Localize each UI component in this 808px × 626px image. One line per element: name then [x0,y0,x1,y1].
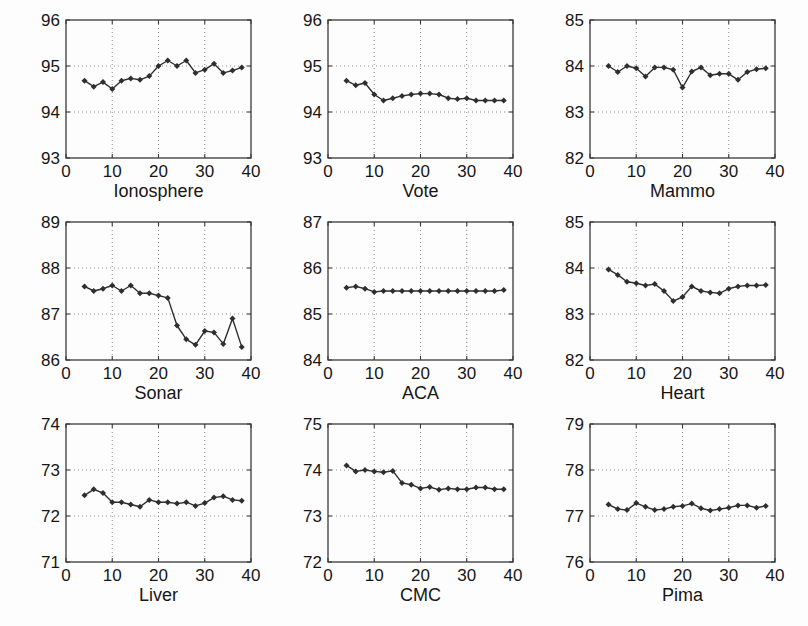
data-point-marker [146,290,152,296]
data-point-marker [82,283,88,289]
y-tick-label: 93 [41,149,60,168]
data-point-marker [128,75,134,81]
x-tick-label: 0 [61,162,70,180]
data-point-marker [202,500,208,506]
data-point-marker [239,498,245,504]
y-tick-label: 87 [303,213,322,232]
y-tick-label: 87 [41,305,60,324]
data-point-marker [492,98,498,104]
x-tick-label: 40 [504,364,523,382]
y-tick-label: 84 [565,57,584,76]
pima-line-chart: 01020304076777879 [540,412,798,584]
data-point-marker [230,68,236,74]
data-point-marker [353,283,359,289]
data-point-marker [408,288,414,294]
data-point-marker [445,485,451,491]
plots-grid: 01020304093949596 Ionosphere 01020304093… [0,0,808,614]
y-tick-label: 84 [303,351,322,370]
data-point-marker [427,288,433,294]
y-tick-label: 85 [565,213,584,232]
data-point-marker [445,288,451,294]
x-tick-label: 40 [504,566,523,584]
subplot-sonar: 01020304086878889 Sonar [16,210,278,412]
data-point-marker [473,98,479,104]
subplot-vote: 01020304093949596 Vote [278,8,540,210]
y-tick-label: 83 [565,305,584,324]
data-point-marker [473,288,479,294]
data-point-marker [652,507,658,513]
data-series-line [347,81,504,101]
x-tick-label: 20 [673,162,692,180]
data-point-marker [344,78,350,84]
data-point-marker [119,288,125,294]
data-point-marker [211,495,217,501]
data-point-marker [633,280,639,286]
y-tick-label: 95 [303,57,322,76]
data-point-marker [445,95,451,101]
data-point-marker [689,69,695,75]
data-point-marker [230,497,236,503]
data-point-marker [427,91,433,97]
y-tick-label: 85 [565,11,584,30]
x-tick-label: 40 [766,162,785,180]
y-tick-label: 79 [565,415,584,434]
y-tick-label: 96 [303,11,322,30]
data-point-marker [239,344,245,350]
y-tick-label: 94 [41,103,60,122]
x-tick-label: 40 [242,162,261,180]
data-point-marker [418,485,424,491]
data-point-marker [165,499,171,505]
x-tick-label: 30 [457,162,476,180]
y-tick-label: 71 [41,553,60,572]
data-point-marker [399,93,405,99]
cmc-line-chart: 01020304072737475 [278,412,536,584]
data-point-marker [698,505,704,511]
x-tick-label: 10 [103,162,122,180]
data-point-marker [362,467,368,473]
data-point-marker [408,482,414,488]
x-tick-label: 30 [195,162,214,180]
data-point-marker [744,282,750,288]
data-point-marker [344,285,350,291]
x-tick-label: 20 [149,162,168,180]
data-point-marker [763,282,769,288]
data-point-marker [726,505,732,511]
data-point-marker [482,98,488,104]
x-tick-label: 0 [585,364,594,382]
subplot-ionosphere: 01020304093949596 Ionosphere [16,8,278,210]
data-point-marker [717,71,723,77]
subplot-title-heart: Heart [590,383,775,404]
y-tick-label: 74 [41,415,60,434]
data-point-marker [128,502,134,508]
x-tick-label: 10 [365,162,384,180]
data-point-marker [455,96,461,102]
data-series-line [85,286,242,348]
aca-line-chart: 01020304084858687 [278,210,536,382]
y-tick-label: 85 [303,305,322,324]
data-point-marker [615,506,621,512]
x-tick-label: 30 [719,566,738,584]
data-point-marker [717,506,723,512]
data-point-marker [174,501,180,507]
data-point-marker [390,95,396,101]
data-point-marker [680,85,686,91]
y-tick-label: 84 [565,259,584,278]
y-tick-label: 88 [41,259,60,278]
data-point-marker [193,503,199,509]
subplot-heart: 01020304082838485 Heart [540,210,802,412]
x-tick-label: 40 [242,364,261,382]
vote-line-chart: 01020304093949596 [278,8,536,180]
data-point-marker [735,502,741,508]
data-point-marker [137,77,143,83]
mammo-line-chart: 01020304082838485 [540,8,798,180]
data-point-marker [482,484,488,490]
data-series-line [85,61,242,90]
data-point-marker [744,502,750,508]
data-point-marker [156,293,162,299]
x-tick-label: 20 [411,162,430,180]
y-tick-label: 86 [303,259,322,278]
data-point-marker [661,64,667,70]
x-tick-label: 10 [103,364,122,382]
y-tick-label: 76 [565,553,584,572]
x-tick-label: 10 [627,364,646,382]
